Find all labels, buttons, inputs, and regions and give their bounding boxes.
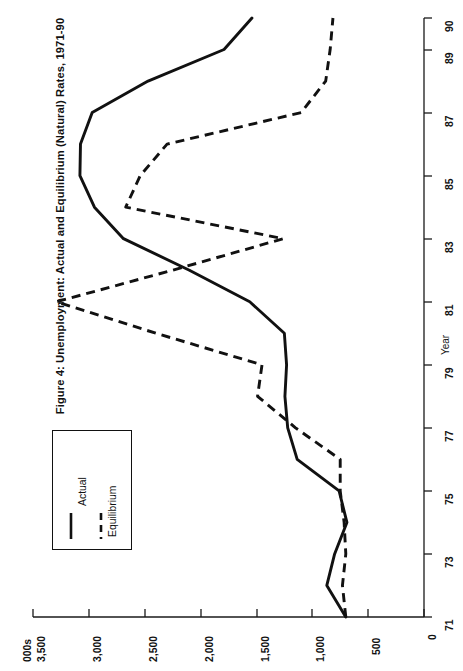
value-axis-units-label: 000s — [22, 639, 33, 662]
value-tick-label-3500: 3,500 — [36, 636, 47, 662]
legend-label-actual: Actual — [77, 477, 88, 506]
chart-plot-area — [0, 0, 463, 671]
year-tick-label-90: 90 — [444, 20, 455, 32]
year-tick-label-83: 83 — [444, 241, 455, 253]
year-tick-label-73: 73 — [444, 556, 455, 568]
value-tick-label-1000: 1,000 — [315, 636, 326, 662]
year-tick-label-79: 79 — [444, 367, 455, 379]
year-axis-title: Year — [440, 335, 451, 355]
value-tick-label-0: 0 — [427, 634, 438, 640]
value-axis-ticks — [33, 609, 424, 617]
legend-label-equilibrium: Equilibrium — [107, 486, 118, 537]
value-tick-label-3000: 3,000 — [92, 636, 103, 662]
value-tick-label-500: 500 — [371, 638, 382, 655]
year-tick-label-89: 89 — [444, 52, 455, 64]
dashed-line-icon — [99, 513, 103, 539]
year-tick-label-71: 71 — [444, 619, 455, 631]
year-tick-label-85: 85 — [444, 178, 455, 190]
value-tick-label-2500: 2,500 — [148, 636, 159, 662]
figure-root: Figure 4: Unemployment: Actual and Equil… — [0, 0, 463, 671]
year-tick-label-87: 87 — [444, 115, 455, 127]
solid-line-icon — [69, 513, 73, 539]
value-tick-label-1500: 1,500 — [260, 636, 271, 662]
value-tick-label-2000: 2,000 — [204, 636, 215, 662]
year-tick-label-77: 77 — [444, 430, 455, 442]
year-tick-label-81: 81 — [444, 304, 455, 316]
year-tick-label-75: 75 — [444, 493, 455, 505]
legend: Actual Equilibrium — [52, 430, 132, 550]
year-axis-ticks — [424, 18, 432, 617]
